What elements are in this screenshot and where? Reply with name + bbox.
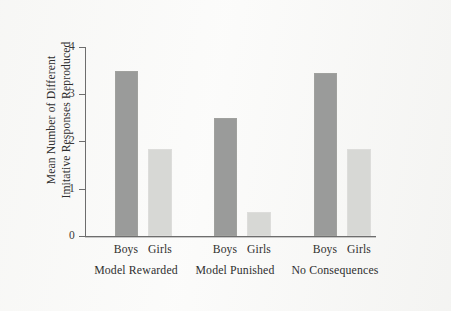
- y-tick-mark-4: [79, 47, 85, 48]
- y-tick-label-0: 0: [53, 230, 75, 242]
- y-tick-mark-1: [79, 189, 85, 190]
- bar-chart: 4 3 2 1 0 Mean Number of Different Imita…: [0, 0, 451, 311]
- bar-model-punished-girls: [247, 212, 271, 236]
- y-tick-mark-3: [79, 94, 85, 95]
- x-sublabel-model-punished-girls: Girls: [229, 244, 289, 257]
- x-group-label-no-consequences: No Consequences: [282, 264, 388, 277]
- x-sublabel-no-consequences-girls: Girls: [329, 244, 389, 257]
- bar-no-consequences-boys: [314, 73, 337, 236]
- y-tick-mark-0: [79, 236, 85, 237]
- x-group-label-model-punished: Model Punished: [183, 264, 287, 277]
- x-group-label-model-rewarded: Model Rewarded: [84, 264, 188, 277]
- y-tick-mark-2: [79, 141, 85, 142]
- y-axis-line: [85, 47, 86, 237]
- y-axis-title-line2: Imitative Responses Reproduced: [59, 22, 74, 218]
- x-axis-line: [85, 236, 376, 237]
- bar-model-rewarded-girls: [148, 149, 172, 236]
- bar-model-rewarded-boys: [115, 71, 138, 236]
- bar-model-punished-boys: [214, 118, 237, 236]
- y-axis-title: Mean Number of Different Imitative Respo…: [44, 22, 74, 218]
- y-axis-title-line1: Mean Number of Different: [45, 56, 58, 185]
- bar-no-consequences-girls: [347, 149, 371, 236]
- chart-page: 4 3 2 1 0 Mean Number of Different Imita…: [0, 0, 451, 311]
- x-sublabel-model-rewarded-girls: Girls: [130, 244, 190, 257]
